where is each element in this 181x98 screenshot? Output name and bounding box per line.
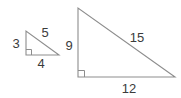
- small-triangle-hypotenuse-label: 5: [41, 25, 48, 40]
- small-triangle-vertical-leg-label: 3: [12, 36, 19, 51]
- small-right-triangle: 3 5 4: [12, 25, 59, 71]
- small-triangle-right-angle-icon: [26, 50, 32, 56]
- figure-canvas: 3 5 4 9 15 12: [0, 0, 181, 98]
- large-triangle-horizontal-leg-label: 12: [122, 81, 136, 96]
- geometry-figure: 3 5 4 9 15 12: [0, 0, 181, 98]
- small-triangle-horizontal-leg-label: 4: [37, 56, 44, 71]
- large-triangle-right-angle-icon: [78, 71, 85, 78]
- large-triangle-hypotenuse-label: 15: [130, 30, 144, 45]
- large-triangle-vertical-leg-label: 9: [65, 38, 72, 53]
- large-triangle-outline: [78, 8, 175, 77]
- large-right-triangle: 9 15 12: [65, 8, 175, 96]
